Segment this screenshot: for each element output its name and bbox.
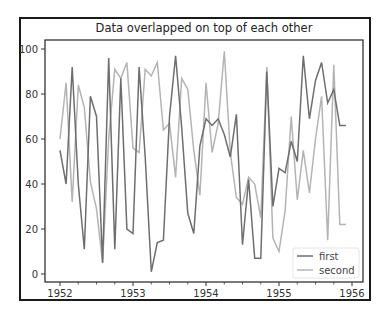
x-tick-label: 1956 [339, 288, 364, 299]
x-axis: 19521953195419551956 [47, 282, 364, 299]
y-tick-label: 80 [25, 89, 38, 100]
y-tick-label: 100 [19, 44, 38, 55]
legend-label-second: second [319, 265, 355, 276]
y-tick-label: 60 [25, 134, 38, 145]
legend: first second [293, 248, 359, 278]
y-axis: 020406080100 [19, 44, 45, 280]
legend-label-first: first [319, 251, 339, 262]
x-tick-label: 1952 [47, 288, 72, 299]
series-first [60, 56, 346, 272]
x-tick-label: 1955 [266, 288, 291, 299]
line-chart: Data overlapped on top of each other 020… [0, 0, 387, 320]
plot-area [45, 40, 363, 282]
y-tick-label: 20 [25, 224, 38, 235]
chart-title: Data overlapped on top of each other [96, 21, 313, 35]
x-tick-label: 1954 [193, 288, 218, 299]
series-layer [60, 51, 346, 271]
x-tick-label: 1953 [120, 288, 145, 299]
y-tick-label: 0 [32, 269, 38, 280]
y-tick-label: 40 [25, 179, 38, 190]
